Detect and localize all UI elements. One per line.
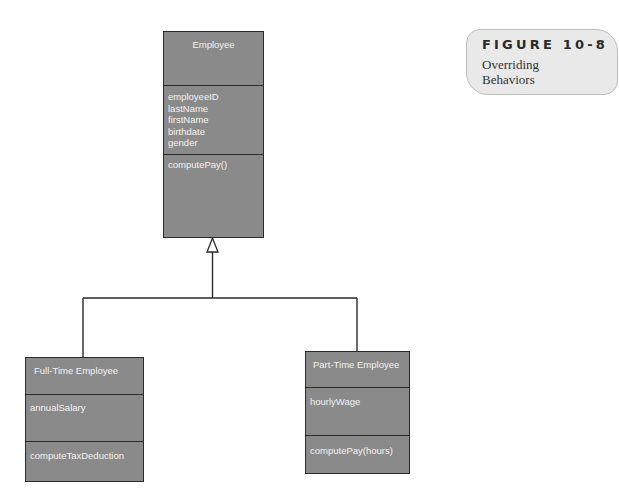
class-full-time-name-section: Full-Time Employee — [26, 358, 143, 395]
class-name: Full-Time Employee — [34, 365, 139, 377]
method: computePay() — [168, 159, 259, 171]
class-part-time-attributes: hourlyWage — [306, 388, 409, 436]
class-part-time-employee: Part-Time Employee hourlyWage computePay… — [305, 351, 410, 474]
class-full-time-attributes: annualSalary — [26, 395, 143, 442]
figure-caption-line: Behaviors — [482, 72, 617, 87]
generalization-arrow-icon — [207, 238, 218, 252]
class-part-time-name-section: Part-Time Employee — [306, 352, 409, 388]
class-full-time-employee: Full-Time Employee annualSalary computeT… — [25, 357, 144, 482]
attribute: firstName — [168, 114, 259, 126]
attribute: hourlyWage — [310, 396, 405, 408]
attribute: birthdate — [168, 126, 259, 138]
class-name: Part-Time Employee — [313, 359, 405, 371]
figure-caption: Overriding Behaviors — [482, 57, 617, 87]
attribute: gender — [168, 137, 259, 149]
method: computeTaxDeduction — [30, 450, 139, 462]
class-part-time-methods: computePay(hours) — [306, 436, 409, 473]
attribute: annualSalary — [30, 402, 139, 414]
figure-number: FIGURE 10-8 — [482, 37, 617, 52]
attribute: lastName — [168, 103, 259, 115]
class-employee: Employee employeeID lastName firstName b… — [163, 31, 264, 238]
class-employee-methods: computePay() — [164, 155, 263, 237]
class-employee-name-section: Employee — [164, 32, 263, 86]
method: computePay(hours) — [310, 445, 405, 457]
class-employee-attributes: employeeID lastName firstName birthdate … — [164, 86, 263, 155]
class-full-time-methods: computeTaxDeduction — [26, 442, 143, 481]
figure-label: FIGURE 10-8 Overriding Behaviors — [466, 29, 618, 95]
class-name: Employee — [168, 39, 259, 51]
figure-caption-line: Overriding — [482, 57, 617, 72]
attribute: employeeID — [168, 91, 259, 103]
